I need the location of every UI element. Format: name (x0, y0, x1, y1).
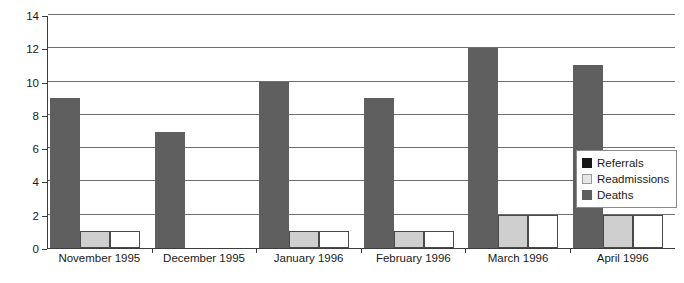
bar-group (153, 16, 258, 248)
chart-legend: ReferralsReadmissionsDeaths (576, 150, 677, 208)
y-axis-tick-label: 2 (9, 210, 39, 222)
y-axis-tick-mark (42, 149, 47, 150)
x-axis-tick-label: February 1996 (361, 252, 466, 264)
legend-item-label: Deaths (597, 189, 633, 201)
legend-swatch-icon (582, 174, 592, 184)
bar-chart: 02468101214 November 1995December 1995Ja… (0, 0, 684, 283)
bar-referrals (424, 231, 454, 248)
bar-group-bars (48, 16, 153, 248)
bar-group (362, 16, 467, 248)
bar-readmissions (394, 231, 424, 248)
bar-group (571, 16, 676, 248)
bar-group-bars (571, 16, 676, 248)
bar-referrals (110, 231, 140, 248)
y-axis-tick-label: 0 (9, 243, 39, 255)
x-axis-tick-label: January 1996 (256, 252, 361, 264)
legend-item: Referrals (582, 155, 669, 171)
y-axis-tick-label: 12 (9, 43, 39, 55)
bar-referrals (528, 215, 558, 248)
bar-group-bars (466, 16, 571, 248)
x-axis-tick-label: November 1995 (47, 252, 152, 264)
bar-group-bars (257, 16, 362, 248)
y-axis-tick-label: 6 (9, 143, 39, 155)
bar-deaths (155, 132, 185, 249)
bar-group-bars (362, 16, 467, 248)
bar-readmissions (80, 231, 110, 248)
bar-group (257, 16, 362, 248)
bar-referrals (319, 231, 349, 248)
y-axis-tick-label: 8 (9, 110, 39, 122)
legend-swatch-icon (582, 158, 592, 168)
y-axis-tick-label: 10 (9, 77, 39, 89)
y-axis-tick-label: 14 (9, 10, 39, 22)
y-axis-tick-mark (42, 182, 47, 183)
x-axis-labels: November 1995December 1995January 1996Fe… (47, 252, 675, 264)
x-axis-tick-label: April 1996 (570, 252, 675, 264)
bar-groups (48, 16, 675, 248)
bar-referrals (633, 215, 663, 248)
bar-deaths (50, 98, 80, 248)
legend-item-label: Readmissions (597, 173, 669, 185)
legend-item: Deaths (582, 187, 669, 203)
bar-readmissions (498, 215, 528, 248)
y-axis-tick-label: 4 (9, 176, 39, 188)
gridline (48, 14, 675, 15)
bar-group-bars (153, 16, 258, 248)
bar-group (466, 16, 571, 248)
bar-group (48, 16, 153, 248)
bar-deaths (364, 98, 394, 248)
y-axis-tick-mark (42, 49, 47, 50)
bar-deaths (259, 82, 289, 248)
y-axis-tick-mark (42, 116, 47, 117)
bar-deaths (468, 48, 498, 248)
legend-swatch-icon (582, 190, 592, 200)
x-axis-tick-label: December 1995 (152, 252, 257, 264)
legend-item: Readmissions (582, 171, 669, 187)
x-axis-tick-label: March 1996 (466, 252, 571, 264)
y-axis-tick-mark (42, 16, 47, 17)
y-axis-tick-mark (42, 216, 47, 217)
y-axis-tick-mark (42, 249, 47, 250)
legend-item-label: Referrals (597, 157, 644, 169)
y-axis-tick-mark (42, 83, 47, 84)
bar-readmissions (603, 215, 633, 248)
plot-area (47, 16, 675, 249)
bar-readmissions (289, 231, 319, 248)
